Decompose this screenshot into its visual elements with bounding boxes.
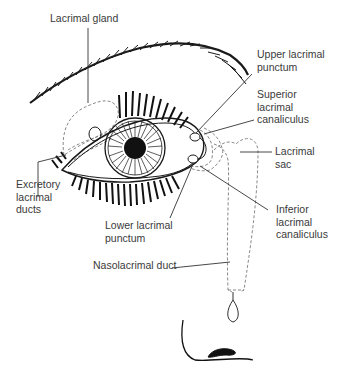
- upper-eyelashes: [52, 91, 188, 168]
- drainage-system-outline: [190, 128, 258, 292]
- leader-upper-punctum: [196, 74, 252, 133]
- leader-nasolacrimal-duct: [172, 262, 230, 268]
- nose: [182, 320, 253, 360]
- eye: [62, 118, 204, 182]
- label-upper-lacrimal-punctum: Upper lacrimal punctum: [257, 48, 325, 73]
- label-inferior-lacrimal-canaliculus: Inferior lacrimal canaliculus: [276, 203, 328, 241]
- lacrimal-apparatus-diagram: Lacrimal gland Upper lacrimal punctum Su…: [0, 0, 344, 375]
- lower-punctum-shape: [188, 155, 198, 163]
- label-superior-lacrimal-canaliculus: Superior lacrimal canaliculus: [257, 88, 309, 126]
- tear-drop: [228, 292, 239, 322]
- label-excretory-lacrimal-ducts: Excretory lacrimal ducts: [16, 178, 60, 216]
- label-lacrimal-gland: Lacrimal gland: [50, 12, 118, 25]
- label-lower-lacrimal-punctum: Lower lacrimal punctum: [105, 219, 173, 244]
- label-lacrimal-sac: Lacrimal sac: [275, 145, 315, 170]
- leader-lower-punctum: [170, 164, 193, 218]
- upper-punctum-shape: [190, 133, 200, 141]
- lower-eyelashes: [72, 176, 179, 206]
- label-nasolacrimal-duct: Nasolacrimal duct: [93, 259, 176, 272]
- leader-superior-canaliculus: [204, 120, 254, 134]
